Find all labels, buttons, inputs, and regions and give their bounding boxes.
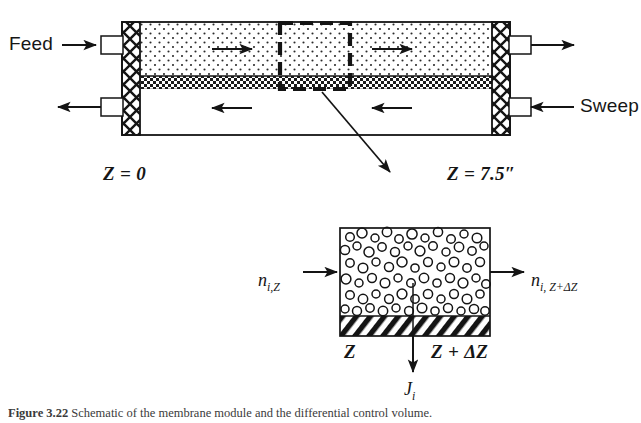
feed-inlet-port [101,36,123,54]
right-tubesheet [492,22,510,135]
outlet-molar-flow-label: ni, Z+ΔZ [531,270,577,295]
left-tubesheet [122,22,140,135]
cv-left-position-label: Z [344,341,356,363]
membrane-module-body [122,22,510,135]
figure-root: Feed Sweep Z = 0 Z = 7.5″ ni,Z ni, Z+ΔZ … [0,0,641,423]
sweep-inlet-port [509,98,531,116]
flux-label: Ji [404,379,415,404]
sweep-label: Sweep [580,95,639,117]
flux-symbol: J [404,379,412,399]
outlet-molar-flow-symbol: n [531,270,540,290]
cv-right-position-label: Z + ΔZ [431,341,488,363]
inlet-molar-flow-subscript: i,Z [267,280,280,294]
position-end-label: Z = 7.5″ [447,163,516,185]
inlet-molar-flow-label: ni,Z [258,270,280,295]
control-volume-detail-body [340,227,490,336]
feed-label: Feed [9,33,53,55]
inlet-molar-flow-symbol: n [258,270,267,290]
position-start-label: Z = 0 [103,163,146,185]
figure-caption: Figure 3.22 Schematic of the membrane mo… [8,406,633,423]
feed-channel [140,23,492,76]
permeate-outlet-port [101,98,123,116]
retentate-outlet-port [509,36,531,54]
figure-canvas [0,0,641,423]
sweep-channel [140,89,492,135]
cv-membrane-strip [340,316,490,336]
figure-caption-prefix: Figure 3.22 [8,406,68,420]
figure-caption-text: Schematic of the membrane module and the… [68,406,432,420]
outlet-molar-flow-subscript: i, Z+ΔZ [540,280,577,294]
flux-subscript: i [412,389,415,403]
